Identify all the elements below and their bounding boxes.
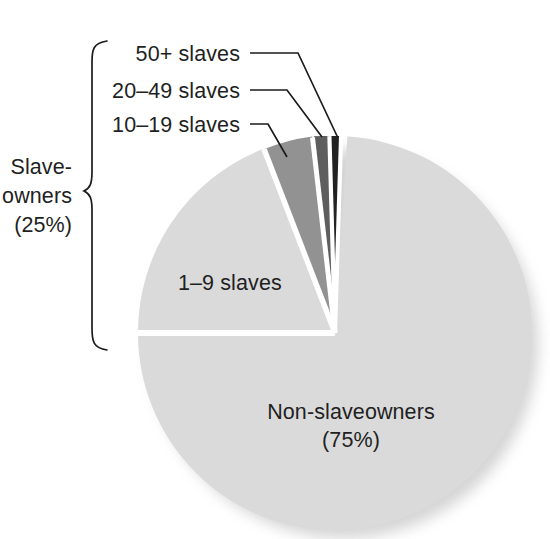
label-1-9-slaves: 1–9 slaves [178, 271, 282, 295]
pie-chart-figure: 50+ slaves 20–49 slaves 10–19 slaves 1–9… [0, 0, 550, 539]
label-slaveowners-percent: (25%) [14, 213, 72, 237]
leader-line-20-49 [250, 90, 322, 137]
chart-canvas: 50+ slaves 20–49 slaves 10–19 slaves 1–9… [0, 0, 550, 539]
paper-grain-overlay [138, 136, 532, 530]
label-50-plus-slaves: 50+ slaves [136, 42, 240, 66]
slaveowners-brace [84, 41, 107, 350]
label-slaveowners-line1: Slave- [10, 155, 72, 179]
label-non-slaveowners-percent: (75%) [322, 428, 380, 452]
label-10-19-slaves: 10–19 slaves [112, 113, 240, 137]
label-20-49-slaves: 20–49 slaves [112, 79, 240, 103]
label-slaveowners-line2: owners [2, 184, 72, 208]
label-non-slaveowners: Non-slaveowners [267, 400, 435, 424]
